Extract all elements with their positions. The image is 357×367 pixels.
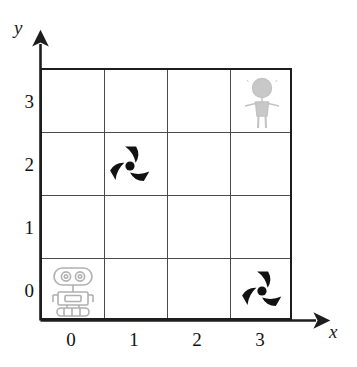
robot-icon — [47, 263, 99, 319]
x-tick-2: 2 — [182, 330, 212, 349]
y-tick-1: 1 — [12, 218, 34, 237]
grid-line-horizontal — [42, 258, 290, 259]
y-tick-3: 3 — [12, 92, 34, 111]
grid-world-figure: y x 0 1 2 3 3 2 1 0 — [0, 0, 357, 367]
y-tick-2: 2 — [12, 155, 34, 174]
x-tick-1: 1 — [119, 330, 149, 349]
x-axis-label: x — [329, 322, 337, 341]
grid-line-horizontal — [42, 132, 290, 133]
y-tick-0: 0 — [12, 281, 34, 300]
x-tick-3: 3 — [245, 330, 275, 349]
grid-line-vertical — [104, 70, 105, 318]
person-icon — [236, 75, 288, 131]
grid-line-horizontal — [42, 195, 290, 196]
radiation-icon — [236, 263, 288, 319]
grid-line-vertical — [167, 70, 168, 318]
y-axis-label: y — [14, 18, 22, 37]
grid-line-vertical — [230, 70, 231, 318]
grid-area — [40, 68, 292, 320]
radiation-icon — [104, 138, 156, 194]
x-tick-0: 0 — [56, 330, 86, 349]
